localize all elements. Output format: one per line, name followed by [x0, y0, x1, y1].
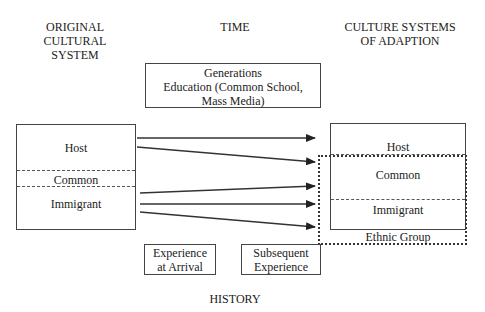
- arrow-immigrant-ethnic: [140, 212, 315, 227]
- experience-at-arrival-box: Experience at Arrival: [144, 244, 216, 275]
- arrow-immigrant-common: [140, 186, 315, 193]
- subsequent-experience-box: Subsequent Experience: [241, 244, 321, 275]
- arrow-host-ethnic: [137, 147, 315, 162]
- history-label: HISTORY: [180, 292, 290, 306]
